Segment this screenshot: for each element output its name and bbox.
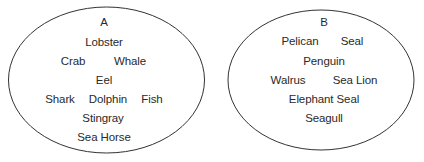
- set-b-ellipse: [228, 10, 414, 150]
- set-b-item: Seal: [341, 34, 364, 48]
- set-b-item: Seagull: [305, 111, 343, 125]
- set-a-label: A: [100, 15, 108, 29]
- set-a-item: Stingray: [82, 111, 123, 125]
- set-a-item: Sea Horse: [77, 130, 130, 144]
- set-b-label: B: [320, 15, 328, 29]
- set-a-item: Eel: [96, 73, 112, 87]
- set-a-item: Crab: [61, 54, 86, 68]
- set-b-item: Pelican: [281, 34, 318, 48]
- set-a-item: Shark: [45, 92, 75, 106]
- set-b-item: Sea Lion: [333, 73, 378, 87]
- set-b-item: Penguin: [303, 54, 345, 68]
- set-a-item: Whale: [114, 54, 146, 68]
- set-a-item: Fish: [141, 92, 162, 106]
- set-b-item: Walrus: [271, 73, 306, 87]
- set-a-item: Dolphin: [89, 92, 127, 106]
- set-b-item: Elephant Seal: [289, 92, 359, 106]
- set-a-item: Lobster: [85, 35, 123, 49]
